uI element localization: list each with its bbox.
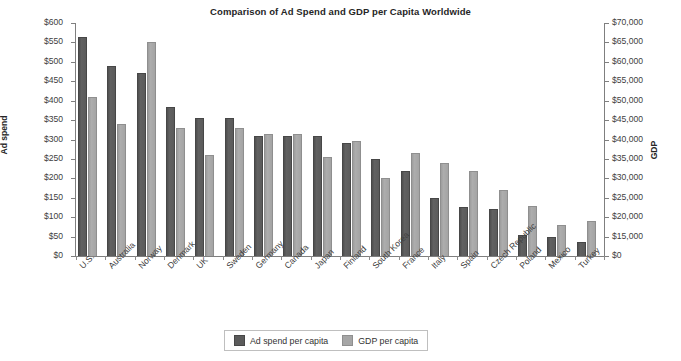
y-tick-right — [605, 62, 609, 63]
y-tick-left — [71, 81, 75, 82]
y-tick-label-right: $15,000 — [612, 232, 643, 241]
bar-group — [193, 23, 222, 256]
bar-ad-spend[interactable] — [78, 37, 87, 256]
x-tick — [575, 256, 576, 260]
bar-ad-spend[interactable] — [371, 159, 380, 256]
x-tick — [604, 256, 605, 260]
y-tick-label-left: $100 — [44, 212, 63, 221]
bar-group — [223, 23, 252, 256]
y-tick-label-right: $40,000 — [612, 135, 643, 144]
y-tick-label-left: $550 — [44, 37, 63, 46]
x-tick — [135, 256, 136, 260]
y-tick-label-left: $600 — [44, 18, 63, 27]
y-tick-label-left: $200 — [44, 173, 63, 182]
y-tick-left — [71, 256, 75, 257]
y-tick-left — [71, 62, 75, 63]
legend-item-gdp[interactable]: GDP per capita — [342, 335, 418, 346]
y-tick-label-left: $0 — [53, 251, 63, 260]
y-tick-label-right: $25,000 — [612, 193, 643, 202]
bar-gdp[interactable] — [88, 97, 97, 256]
y-tick-label-left: $300 — [44, 135, 63, 144]
y-tick-label-left: $50 — [49, 232, 63, 241]
bar-gdp[interactable] — [147, 42, 156, 256]
y-tick-label-left: $450 — [44, 76, 63, 85]
bar-gdp[interactable] — [293, 134, 302, 256]
bar-ad-spend[interactable] — [283, 136, 292, 256]
legend-label-gdp: GDP per capita — [358, 336, 418, 346]
bar-ad-spend[interactable] — [313, 136, 322, 256]
bar-ad-spend[interactable] — [489, 209, 498, 256]
y-tick-left — [71, 178, 75, 179]
bar-group — [340, 23, 369, 256]
bar-gdp[interactable] — [205, 155, 214, 256]
y-tick-label-right: $0 — [612, 251, 622, 260]
y-tick-left — [71, 217, 75, 218]
plot-area — [76, 23, 603, 256]
x-tick — [428, 256, 429, 260]
bar-ad-spend[interactable] — [195, 118, 204, 256]
bar-ad-spend[interactable] — [137, 73, 146, 256]
bar-gdp[interactable] — [117, 124, 126, 256]
bar-group — [135, 23, 164, 256]
y-tick-label-right: $20,000 — [612, 212, 643, 221]
bar-gdp[interactable] — [323, 157, 332, 256]
y-tick-left — [71, 159, 75, 160]
x-tick — [399, 256, 400, 260]
bar-group — [76, 23, 105, 256]
bar-group — [252, 23, 281, 256]
y-tick-right — [605, 159, 609, 160]
y-axis-title-right: GDP — [649, 141, 659, 160]
chart-legend: Ad spend per capita GDP per capita — [224, 330, 428, 351]
bar-group — [399, 23, 428, 256]
bar-gdp[interactable] — [176, 128, 185, 256]
x-tick — [311, 256, 312, 260]
bar-gdp[interactable] — [411, 153, 420, 256]
y-tick-label-left: $350 — [44, 115, 63, 124]
bar-ad-spend[interactable] — [166, 107, 175, 257]
bar-ad-spend[interactable] — [342, 143, 351, 256]
bar-ad-spend[interactable] — [107, 66, 116, 256]
x-tick — [281, 256, 282, 260]
chart-title: Comparison of Ad Spend and GDP per Capit… — [0, 6, 681, 17]
y-tick-right — [605, 217, 609, 218]
y-axis-title-left: Ad spend — [0, 115, 9, 154]
x-tick — [457, 256, 458, 260]
bar-group — [311, 23, 340, 256]
bar-ad-spend[interactable] — [430, 198, 439, 256]
bar-ad-spend[interactable] — [225, 118, 234, 256]
y-tick-label-left: $400 — [44, 96, 63, 105]
legend-label-ad-spend: Ad spend per capita — [250, 336, 328, 346]
y-tick-right — [605, 140, 609, 141]
x-tick — [252, 256, 253, 260]
x-tick — [369, 256, 370, 260]
chart-container: Comparison of Ad Spend and GDP per Capit… — [0, 0, 681, 361]
x-tick — [164, 256, 165, 260]
bar-ad-spend[interactable] — [254, 136, 263, 256]
bar-gdp[interactable] — [440, 163, 449, 256]
y-tick-right — [605, 120, 609, 121]
y-tick-left — [71, 23, 75, 24]
y-tick-label-left: $500 — [44, 57, 63, 66]
bar-gdp[interactable] — [235, 128, 244, 256]
bar-group — [105, 23, 134, 256]
y-tick-label-right: $65,000 — [612, 37, 643, 46]
y-tick-label-right: $35,000 — [612, 154, 643, 163]
x-tick — [340, 256, 341, 260]
y-tick-label-left: $250 — [44, 154, 63, 163]
x-tick — [223, 256, 224, 260]
y-tick-right — [605, 256, 609, 257]
bar-group — [457, 23, 486, 256]
y-tick-label-right: $70,000 — [612, 18, 643, 27]
bar-group — [487, 23, 516, 256]
bar-gdp[interactable] — [352, 141, 361, 256]
legend-swatch-icon-gdp — [342, 335, 353, 346]
bar-gdp[interactable] — [469, 171, 478, 256]
legend-item-ad-spend[interactable]: Ad spend per capita — [234, 335, 328, 346]
bar-ad-spend[interactable] — [459, 207, 468, 256]
y-tick-right — [605, 81, 609, 82]
y-tick-label-left: $150 — [44, 193, 63, 202]
y-tick-right — [605, 178, 609, 179]
y-tick-right — [605, 23, 609, 24]
y-tick-label-right: $60,000 — [612, 57, 643, 66]
bar-gdp[interactable] — [264, 134, 273, 256]
